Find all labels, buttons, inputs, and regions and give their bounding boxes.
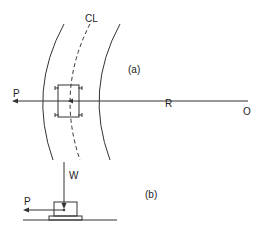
force-p-arrowhead bbox=[12, 99, 18, 104]
rail-base bbox=[49, 216, 82, 220]
radius-label: R bbox=[165, 98, 172, 109]
centerline-label: CL bbox=[85, 13, 98, 24]
center-of-gravity-dot bbox=[63, 209, 65, 211]
part-a-label: (a) bbox=[128, 64, 140, 75]
origin-label: O bbox=[243, 106, 251, 117]
force-p-label-a: P bbox=[13, 88, 20, 99]
weight-label: W bbox=[69, 170, 79, 181]
outer-rail-arc bbox=[43, 24, 64, 160]
part-b: W P (b) bbox=[23, 162, 157, 220]
centerline-arc bbox=[70, 24, 90, 160]
curved-track-diagram: CL (a) P R O W P (b) bbox=[0, 0, 261, 232]
weight-arrowhead bbox=[62, 203, 67, 209]
inner-rail-arc bbox=[99, 24, 120, 160]
force-p-arrowhead-b bbox=[23, 208, 29, 213]
part-b-label: (b) bbox=[145, 189, 157, 200]
force-p-label-b: P bbox=[24, 196, 31, 207]
part-a: CL (a) P R O bbox=[12, 13, 251, 160]
